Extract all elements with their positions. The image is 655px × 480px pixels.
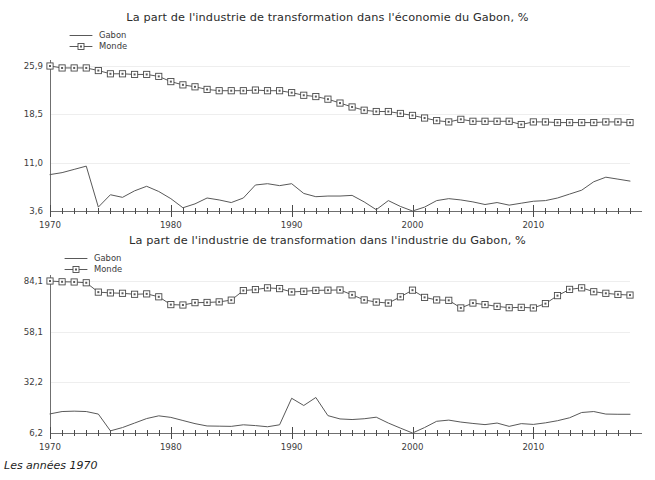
x-axis-tick-label: 1970: [39, 442, 61, 452]
series-marker-dot: [544, 121, 546, 123]
series-marker-dot: [170, 304, 172, 306]
series-marker-dot: [399, 112, 401, 114]
legend-item-gabon: Gabon: [68, 30, 127, 41]
series-marker-dot: [134, 293, 136, 295]
series-marker-dot: [218, 90, 220, 92]
series-marker-dot: [472, 120, 474, 122]
series-marker-dot: [158, 75, 160, 77]
series-marker-dot: [532, 307, 534, 309]
series-marker-dot: [97, 291, 99, 293]
y-axis-tick-label: 6,2: [29, 428, 43, 438]
series-marker-dot: [605, 292, 607, 294]
series-marker-dot: [146, 73, 148, 75]
series-marker-dot: [605, 121, 607, 123]
series-marker-dot: [484, 120, 486, 122]
series-marker-dot: [242, 290, 244, 292]
series-marker-dot: [170, 81, 172, 83]
chart-panel-top: La part de l'industrie de transformation…: [0, 0, 655, 228]
series-marker-dot: [267, 90, 269, 92]
series-marker-dot: [399, 296, 401, 298]
legend-swatch-line-icon: [63, 253, 89, 264]
series-marker-dot: [375, 111, 377, 113]
series-marker-dot: [629, 122, 631, 124]
series-marker-dot: [472, 302, 474, 304]
series-marker-dot: [520, 306, 522, 308]
series-marker-dot: [122, 73, 124, 75]
series-marker-dot: [412, 289, 414, 291]
series-marker-dot: [496, 305, 498, 307]
series-marker-dot: [230, 90, 232, 92]
series-marker-dot: [230, 299, 232, 301]
series-marker-dot: [460, 307, 462, 309]
series-marker-dot: [351, 294, 353, 296]
series-marker-dot: [134, 73, 136, 75]
series-marker-dot: [557, 295, 559, 297]
figure-page: La part de l'industrie de transformation…: [0, 0, 655, 480]
series-line-gabon: [50, 166, 630, 211]
y-axis-tick-label: 11,0: [24, 158, 43, 168]
series-marker-dot: [520, 124, 522, 126]
series-marker-dot: [593, 291, 595, 293]
figure-caption: Les années 1970: [4, 459, 98, 472]
series-marker-dot: [303, 94, 305, 96]
series-marker-dot: [327, 98, 329, 100]
series-marker-dot: [194, 86, 196, 88]
legend-swatch-line-icon: [68, 30, 94, 41]
legend-label-monde: Monde: [94, 264, 122, 275]
series-marker-dot: [387, 111, 389, 113]
x-axis-tick-label: 1980: [160, 442, 182, 452]
series-marker-dot: [484, 304, 486, 306]
series-marker-dot: [617, 293, 619, 295]
y-axis-tick-label: 58,1: [24, 327, 43, 337]
y-axis-tick-label: 84,1: [24, 276, 43, 286]
series-marker-dot: [254, 289, 256, 291]
series-marker-dot: [569, 122, 571, 124]
legend-label-monde: Monde: [99, 41, 127, 52]
legend-top: Gabon Monde: [68, 30, 127, 52]
series-marker-dot: [436, 299, 438, 301]
legend-swatch-line-marker-icon: [63, 264, 89, 275]
legend-item-monde: Monde: [63, 264, 122, 275]
chart-title-bottom: La part de l'industrie de transformation…: [0, 234, 655, 247]
series-marker-dot: [218, 301, 220, 303]
series-marker-dot: [351, 106, 353, 108]
series-marker-dot: [363, 109, 365, 111]
series-marker-dot: [303, 290, 305, 292]
series-marker-dot: [375, 301, 377, 303]
series-marker-dot: [109, 73, 111, 75]
y-axis-tick-label: 18,5: [24, 109, 43, 119]
series-marker-dot: [339, 289, 341, 291]
series-marker-dot: [182, 84, 184, 86]
series-marker-dot: [460, 118, 462, 120]
series-marker-dot: [254, 89, 256, 91]
series-marker-dot: [85, 67, 87, 69]
series-marker-dot: [339, 102, 341, 104]
series-marker-dot: [508, 120, 510, 122]
series-marker-dot: [146, 293, 148, 295]
series-marker-dot: [122, 292, 124, 294]
series-marker-dot: [508, 307, 510, 309]
series-marker-dot: [387, 302, 389, 304]
legend-swatch-line-marker-icon: [68, 41, 94, 52]
series-marker-dot: [448, 121, 450, 123]
series-marker-dot: [291, 291, 293, 293]
series-marker-dot: [448, 299, 450, 301]
series-marker-dot: [412, 114, 414, 116]
chart-panel-bottom: La part de l'industrie de transformation…: [0, 225, 655, 452]
series-marker-dot: [61, 67, 63, 69]
series-marker-dot: [315, 96, 317, 98]
series-line-gabon: [50, 397, 630, 433]
legend-label-gabon: Gabon: [94, 253, 121, 264]
series-marker-dot: [49, 280, 51, 282]
chart-title-top: La part de l'industrie de transformation…: [0, 11, 655, 24]
y-axis-tick-label: 3,6: [29, 206, 43, 216]
y-axis-tick-label: 25,9: [24, 61, 43, 71]
x-axis-tick-label: 2000: [402, 442, 424, 452]
series-marker-dot: [73, 281, 75, 283]
series-marker-dot: [242, 90, 244, 92]
series-marker-dot: [436, 120, 438, 122]
series-marker-dot: [544, 303, 546, 305]
series-marker-dot: [279, 288, 281, 290]
series-marker-dot: [496, 120, 498, 122]
series-marker-dot: [109, 292, 111, 294]
